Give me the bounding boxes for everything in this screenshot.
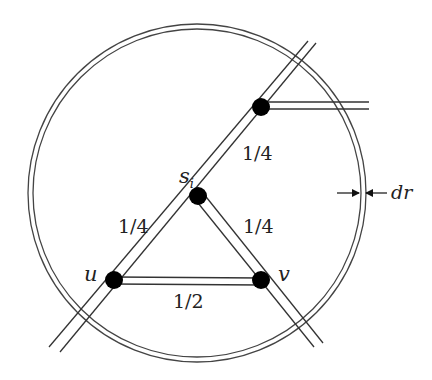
weight-label-si-top: 1/4 [242,144,273,163]
label-v: v [278,264,290,285]
node-u [105,271,123,289]
label-s-i-subscript: i [190,176,194,191]
edge-strip-u-v [114,277,261,285]
node-v [252,271,270,289]
label-dr: dr [391,183,412,202]
label-u: u [84,264,98,285]
node-top [252,98,270,116]
weight-label-si-u: 1/4 [118,217,149,236]
label-s-i-base: s [179,164,190,188]
weight-label-u-v: 1/2 [173,292,204,311]
weight-label-si-v: 1/4 [243,217,274,236]
annulus-graph-diagram [0,0,432,380]
nodes [105,98,270,289]
label-s-i: si [179,166,194,187]
edge-strips [49,41,369,352]
edge-strip-top-right [261,102,369,109]
